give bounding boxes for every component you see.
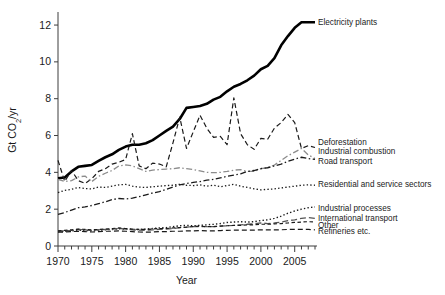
series-label-road-transport: Road transport bbox=[318, 157, 373, 166]
series-label-deforestation: Deforestation bbox=[318, 138, 367, 147]
y-tick-label-12: 12 bbox=[39, 19, 51, 31]
series-label-refineries-etc: Refineries etc. bbox=[318, 227, 370, 236]
x-tick-label-1970: 1970 bbox=[46, 255, 70, 267]
y-tick-label-2: 2 bbox=[45, 203, 51, 215]
y-tick-label-0: 0 bbox=[45, 240, 51, 252]
x-tick-label-1995: 1995 bbox=[215, 255, 239, 267]
x-tick-label-2000: 2000 bbox=[249, 255, 273, 267]
series-line-electricity-plants bbox=[58, 22, 315, 178]
x-tick-label-2005: 2005 bbox=[283, 255, 307, 267]
series-label-residential-and-service-sectors: Residential and service sectors bbox=[318, 180, 431, 189]
y-axis-title-group: Gt CO2/yr bbox=[6, 107, 23, 153]
series-line-industrial-combustion bbox=[58, 148, 315, 181]
chart-figure: 0246810121970197519801985199019952000200… bbox=[0, 0, 445, 295]
series-label-electricity-plants: Electricity plants bbox=[318, 18, 377, 27]
y-tick-label-4: 4 bbox=[45, 166, 51, 178]
y-tick-label-10: 10 bbox=[39, 55, 51, 67]
emissions-line-chart: 0246810121970197519801985199019952000200… bbox=[0, 0, 445, 295]
series-label-industrial-combustion: Industrial combustion bbox=[318, 147, 396, 156]
svg-text:Gt CO2/yr: Gt CO2/yr bbox=[6, 107, 23, 153]
series-line-deforestation bbox=[58, 98, 315, 184]
x-axis-title: Year bbox=[176, 274, 198, 286]
x-tick-label-1985: 1985 bbox=[148, 255, 172, 267]
series-label-industrial-processes: Industrial processes bbox=[318, 204, 391, 213]
x-tick-label-1975: 1975 bbox=[80, 255, 104, 267]
y-tick-label-8: 8 bbox=[45, 92, 51, 104]
series-line-industrial-processes bbox=[58, 207, 315, 232]
series-line-residential-and-service-sectors bbox=[58, 184, 315, 192]
x-tick-label-1980: 1980 bbox=[114, 255, 138, 267]
x-tick-label-1990: 1990 bbox=[182, 255, 206, 267]
y-tick-label-6: 6 bbox=[45, 129, 51, 141]
